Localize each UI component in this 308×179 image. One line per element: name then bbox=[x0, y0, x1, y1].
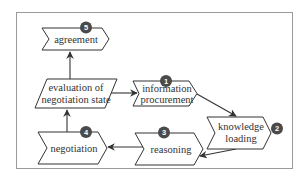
knowledge-loading-label-line2: loading bbox=[225, 133, 257, 144]
step-badge-5-number: 5 bbox=[84, 23, 88, 32]
edge-information-to-knowledge bbox=[197, 94, 236, 116]
agreement-label: agreement bbox=[54, 34, 98, 45]
node-evaluation[interactable]: evaluation of negotiation state bbox=[35, 79, 117, 108]
node-negotiation[interactable]: negotiation 4 bbox=[38, 126, 107, 164]
evaluation-label-line2: negotiation state bbox=[41, 94, 110, 105]
evaluation-label-line1: evaluation of bbox=[48, 82, 104, 93]
knowledge-loading-label-line1: knowledge bbox=[218, 121, 264, 132]
information-procurement-label-line2: procurement bbox=[140, 94, 193, 105]
negotiation-label: negotiation bbox=[50, 143, 98, 154]
negotiation-flow-diagram: agreement 5 evaluation of negotiation st… bbox=[0, 0, 308, 179]
edge-knowledge-to-reasoning bbox=[200, 149, 236, 156]
step-badge-1-number: 1 bbox=[164, 77, 168, 86]
step-badge-2-number: 2 bbox=[275, 124, 279, 133]
step-badge-3-number: 3 bbox=[162, 128, 166, 137]
node-knowledge-loading[interactable]: knowledge loading 2 bbox=[207, 117, 283, 149]
reasoning-label: reasoning bbox=[151, 144, 193, 155]
node-agreement[interactable]: agreement 5 bbox=[42, 22, 109, 51]
node-reasoning[interactable]: reasoning 3 bbox=[135, 127, 203, 166]
node-information-procurement[interactable]: information procurement 1 bbox=[133, 75, 197, 106]
